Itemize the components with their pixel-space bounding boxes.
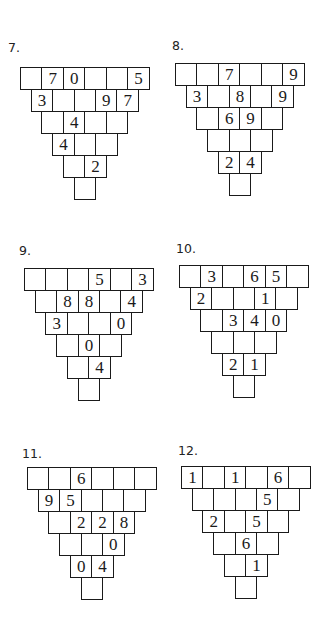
pyramid-cell[interactable]: 6 [70, 467, 93, 490]
pyramid-cell[interactable]: 5 [265, 265, 288, 288]
pyramid-cell[interactable] [63, 155, 86, 178]
pyramid-cell[interactable] [229, 129, 252, 152]
pyramid-cell[interactable] [275, 287, 298, 310]
pyramid-cell[interactable] [207, 85, 230, 108]
pyramid-cell[interactable] [239, 63, 262, 86]
pyramid-cell[interactable]: 7 [116, 89, 139, 112]
pyramid-cell[interactable]: 8 [113, 511, 136, 534]
pyramid-cell[interactable] [67, 268, 90, 291]
pyramid-cell[interactable] [192, 488, 215, 511]
pyramid-cell[interactable]: 9 [271, 85, 294, 108]
pyramid-cell[interactable] [91, 467, 114, 490]
pyramid-cell[interactable] [27, 467, 50, 490]
pyramid-cell[interactable] [261, 107, 284, 130]
pyramid-cell[interactable]: 9 [239, 107, 262, 130]
pyramid-cell[interactable]: 6 [243, 265, 266, 288]
pyramid-cell[interactable] [88, 312, 111, 335]
pyramid-cell[interactable]: 2 [91, 511, 114, 534]
pyramid-cell[interactable] [99, 290, 122, 313]
pyramid-cell[interactable] [24, 268, 47, 291]
pyramid-cell[interactable] [233, 375, 256, 398]
pyramid-cell[interactable] [196, 63, 219, 86]
pyramid-cell[interactable]: 1 [181, 466, 204, 489]
pyramid-cell[interactable] [254, 331, 277, 354]
pyramid-cell[interactable] [261, 63, 284, 86]
pyramid-cell[interactable] [235, 576, 258, 599]
pyramid-cell[interactable]: 4 [91, 555, 114, 578]
pyramid-cell[interactable] [224, 554, 247, 577]
pyramid-cell[interactable] [250, 129, 273, 152]
pyramid-cell[interactable]: 0 [265, 309, 288, 332]
pyramid-cell[interactable] [196, 107, 219, 130]
pyramid-cell[interactable] [134, 467, 157, 490]
pyramid-cell[interactable]: 1 [243, 353, 266, 376]
pyramid-cell[interactable]: 2 [218, 151, 241, 174]
pyramid-cell[interactable]: 3 [31, 89, 54, 112]
pyramid-cell[interactable] [229, 173, 252, 196]
pyramid-cell[interactable]: 1 [224, 466, 247, 489]
pyramid-cell[interactable] [48, 467, 71, 490]
pyramid-cell[interactable] [250, 85, 273, 108]
pyramid-cell[interactable]: 3 [131, 268, 154, 291]
pyramid-cell[interactable]: 5 [127, 67, 150, 90]
pyramid-cell[interactable] [207, 129, 230, 152]
pyramid-cell[interactable] [99, 334, 122, 357]
pyramid-cell[interactable] [179, 265, 202, 288]
pyramid-cell[interactable]: 6 [235, 532, 258, 555]
pyramid-cell[interactable] [235, 488, 258, 511]
pyramid-cell[interactable]: 0 [78, 334, 101, 357]
pyramid-cell[interactable]: 5 [245, 510, 268, 533]
pyramid-cell[interactable] [123, 489, 146, 512]
pyramid-cell[interactable]: 2 [70, 511, 93, 534]
pyramid-cell[interactable] [84, 111, 107, 134]
pyramid-cell[interactable] [84, 67, 107, 90]
pyramid-cell[interactable]: 4 [120, 290, 143, 313]
pyramid-cell[interactable] [45, 268, 68, 291]
pyramid-cell[interactable] [211, 287, 234, 310]
pyramid-cell[interactable]: 9 [95, 89, 118, 112]
pyramid-cell[interactable]: 7 [41, 67, 64, 90]
pyramid-cell[interactable]: 3 [222, 309, 245, 332]
pyramid-cell[interactable]: 9 [282, 63, 305, 86]
pyramid-cell[interactable] [110, 268, 133, 291]
pyramid-cell[interactable]: 4 [63, 111, 86, 134]
pyramid-cell[interactable] [81, 577, 104, 600]
pyramid-cell[interactable] [277, 488, 300, 511]
pyramid-cell[interactable] [59, 533, 82, 556]
pyramid-cell[interactable] [200, 309, 223, 332]
pyramid-cell[interactable] [286, 265, 309, 288]
pyramid-cell[interactable]: 4 [88, 356, 111, 379]
pyramid-cell[interactable] [48, 511, 71, 534]
pyramid-cell[interactable]: 3 [45, 312, 68, 335]
pyramid-cell[interactable]: 5 [59, 489, 82, 512]
pyramid-cell[interactable]: 8 [78, 290, 101, 313]
pyramid-cell[interactable] [213, 488, 236, 511]
pyramid-cell[interactable] [67, 356, 90, 379]
pyramid-cell[interactable] [222, 265, 245, 288]
pyramid-cell[interactable]: 8 [56, 290, 79, 313]
pyramid-cell[interactable] [67, 312, 90, 335]
pyramid-cell[interactable]: 8 [229, 85, 252, 108]
pyramid-cell[interactable]: 2 [202, 510, 225, 533]
pyramid-cell[interactable]: 1 [245, 554, 268, 577]
pyramid-cell[interactable] [102, 489, 125, 512]
pyramid-cell[interactable] [74, 89, 97, 112]
pyramid-cell[interactable]: 5 [256, 488, 279, 511]
pyramid-cell[interactable]: 2 [190, 287, 213, 310]
pyramid-cell[interactable]: 4 [52, 133, 75, 156]
pyramid-cell[interactable]: 0 [70, 555, 93, 578]
pyramid-cell[interactable] [74, 177, 97, 200]
pyramid-cell[interactable] [81, 533, 104, 556]
pyramid-cell[interactable] [211, 331, 234, 354]
pyramid-cell[interactable]: 3 [200, 265, 223, 288]
pyramid-cell[interactable] [74, 133, 97, 156]
pyramid-cell[interactable] [202, 466, 225, 489]
pyramid-cell[interactable] [78, 378, 101, 401]
pyramid-cell[interactable] [233, 331, 256, 354]
pyramid-cell[interactable] [106, 67, 129, 90]
pyramid-cell[interactable] [95, 133, 118, 156]
pyramid-cell[interactable] [245, 466, 268, 489]
pyramid-cell[interactable]: 5 [88, 268, 111, 291]
pyramid-cell[interactable]: 0 [110, 312, 133, 335]
pyramid-cell[interactable]: 0 [63, 67, 86, 90]
